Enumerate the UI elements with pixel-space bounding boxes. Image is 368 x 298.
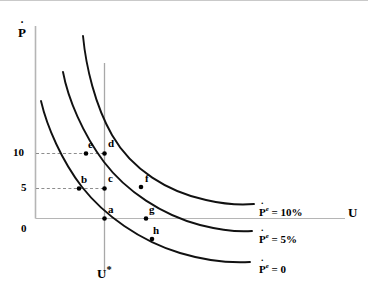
y-axis-title: P˙	[18, 26, 26, 39]
point-label-d: d	[108, 138, 114, 149]
point-marker-h	[150, 237, 155, 242]
point-marker-g	[144, 216, 149, 221]
point-marker-c	[102, 186, 107, 191]
tick-label-5: 5	[21, 182, 27, 193]
point-marker-a	[102, 216, 107, 221]
point-marker-f	[139, 185, 144, 190]
point-marker-b	[77, 186, 82, 191]
curve-label-pe-0: P˙e = 0	[259, 263, 286, 275]
curve-label-pe-10-value: = 10%	[269, 206, 303, 218]
point-label-a: a	[108, 204, 114, 215]
point-marker-e	[84, 151, 89, 156]
curve-label-pe-5-value: = 5%	[269, 233, 297, 245]
natural-rate-label: U*	[97, 265, 112, 280]
phillips-curve-figure: P˙ U 10 5 0 e d b c a f g h U* P˙e = 10%…	[0, 0, 368, 298]
point-label-c: c	[108, 173, 113, 184]
point-marker-d	[102, 151, 107, 156]
tick-label-10: 10	[13, 147, 24, 158]
point-label-h: h	[153, 225, 159, 236]
tick-label-0: 0	[21, 223, 27, 234]
curve-pe-5	[63, 72, 252, 231]
curve-label-pe-0-value: = 0	[269, 263, 286, 275]
curve-label-pe-5: P˙e = 5%	[259, 233, 297, 245]
point-label-f: f	[145, 173, 149, 184]
plot-svg	[0, 1, 368, 298]
curve-label-pe-10: P˙e = 10%	[259, 206, 303, 218]
figure-canvas: P˙ U 10 5 0 e d b c a f g h U* P˙e = 10%…	[0, 1, 368, 298]
x-axis-title: U	[348, 206, 357, 219]
point-label-e: e	[88, 139, 93, 150]
point-label-b: b	[81, 174, 87, 185]
point-label-g: g	[149, 204, 155, 215]
